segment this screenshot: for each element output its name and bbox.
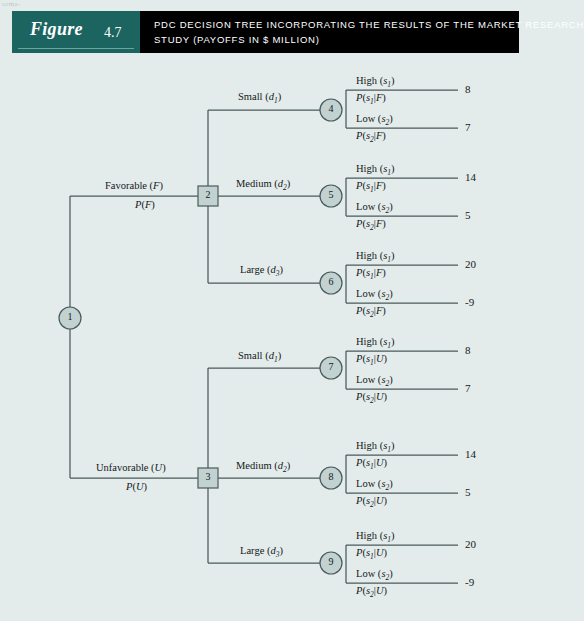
outcome-state-label-5: Low (s2) — [356, 288, 393, 302]
payoff-value-11: -9 — [465, 576, 474, 588]
outcome-probability-label-10: P(s1|U) — [356, 547, 387, 561]
outcome-state-label-3: Low (s2) — [356, 201, 393, 215]
tree-node-label-6: 6 — [320, 276, 342, 287]
outcome-probability-label-0: P(s1|F) — [356, 92, 386, 106]
outcome-probability-label-3: P(s2|F) — [356, 218, 386, 232]
outcome-state-label-10: High (s1) — [356, 530, 394, 544]
payoff-value-8: 14 — [465, 448, 476, 460]
tree-node-label-9: 9 — [320, 556, 342, 567]
decision-branch-label-5: Large (d3) — [240, 545, 283, 559]
decision-branch-label-2: Large (d3) — [240, 264, 283, 278]
payoff-value-5: -9 — [465, 296, 474, 308]
outcome-probability-label-4: P(s1|F) — [356, 267, 386, 281]
tree-node-label-8: 8 — [320, 471, 342, 482]
market-research-label-above-0: Favorable (F) — [105, 180, 163, 191]
tree-node-label-3: 3 — [197, 471, 219, 482]
payoff-value-3: 5 — [465, 209, 471, 221]
outcome-probability-label-9: P(s2|U) — [356, 495, 387, 509]
outcome-probability-label-7: P(s2|U) — [356, 391, 387, 405]
decision-branch-label-0: Small (d1) — [238, 91, 281, 105]
outcome-state-label-7: Low (s2) — [356, 374, 393, 388]
payoff-value-4: 20 — [465, 258, 476, 270]
tree-nodes — [59, 99, 342, 574]
outcome-probability-label-6: P(s1|U) — [356, 353, 387, 367]
outcome-state-label-8: High (s1) — [356, 440, 394, 454]
outcome-state-label-1: Low (s2) — [356, 113, 393, 127]
outcome-probability-label-1: P(s2|F) — [356, 130, 386, 144]
payoff-value-10: 20 — [465, 538, 476, 550]
market-research-prob-below-0: P(F) — [135, 199, 155, 210]
tree-node-label-2: 2 — [197, 189, 219, 200]
payoff-value-2: 14 — [465, 171, 476, 183]
outcome-state-label-4: High (s1) — [356, 250, 394, 264]
market-research-prob-below-1: P(U) — [126, 481, 147, 492]
tree-node-label-5: 5 — [320, 189, 342, 200]
outcome-probability-label-5: P(s2|F) — [356, 305, 386, 319]
decision-branch-label-1: Medium (d2) — [236, 178, 290, 192]
outcome-state-label-6: High (s1) — [356, 336, 394, 350]
decision-branch-label-4: Medium (d2) — [236, 460, 290, 474]
payoff-value-9: 5 — [465, 486, 471, 498]
tree-node-label-7: 7 — [320, 361, 342, 372]
payoff-value-6: 8 — [465, 344, 471, 356]
payoff-value-1: 7 — [465, 121, 471, 133]
tree-node-label-1: 1 — [59, 311, 81, 322]
outcome-probability-label-2: P(s1|F) — [356, 180, 386, 194]
outcome-state-label-9: Low (s2) — [356, 478, 393, 492]
outcome-state-label-11: Low (s2) — [356, 568, 393, 582]
tree-edges — [70, 90, 458, 583]
payoff-value-0: 8 — [465, 83, 471, 95]
outcome-probability-label-11: P(s2|U) — [356, 585, 387, 599]
outcome-state-label-0: High (s1) — [356, 75, 394, 89]
outcome-probability-label-8: P(s1|U) — [356, 457, 387, 471]
decision-branch-label-3: Small (d1) — [238, 350, 281, 364]
payoff-value-7: 7 — [465, 382, 471, 394]
market-research-label-above-1: Unfavorable (U) — [96, 462, 166, 473]
tree-node-label-4: 4 — [320, 103, 342, 114]
outcome-state-label-2: High (s1) — [356, 163, 394, 177]
